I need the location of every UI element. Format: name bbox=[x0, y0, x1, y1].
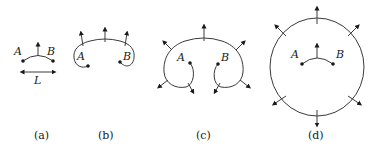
panel-d: A B (d) bbox=[270, 8, 364, 142]
point-b-dot bbox=[216, 62, 220, 66]
caption-b: (b) bbox=[98, 129, 114, 142]
panel-b: A B (b) bbox=[74, 29, 134, 142]
label-a: A bbox=[176, 51, 185, 64]
normal-arrow-icon bbox=[215, 83, 220, 92]
point-a-dot bbox=[86, 64, 90, 68]
caption-c: (c) bbox=[196, 129, 211, 142]
point-a-dot bbox=[188, 61, 192, 65]
point-b-dot bbox=[118, 60, 122, 64]
curve-ab bbox=[302, 58, 333, 64]
normal-arrow-icon bbox=[159, 80, 168, 87]
closed-curve bbox=[270, 18, 364, 116]
point-a-dot bbox=[21, 59, 25, 63]
label-a: A bbox=[76, 50, 85, 63]
label-b: B bbox=[122, 50, 131, 63]
point-a-dot bbox=[300, 62, 304, 66]
label-length: L bbox=[33, 74, 41, 87]
normal-arrow-icon bbox=[236, 42, 244, 50]
label-b: B bbox=[220, 51, 229, 64]
panel-a: A B L (a) bbox=[13, 44, 55, 142]
point-b-dot bbox=[51, 59, 55, 63]
normal-arrow-icon bbox=[164, 42, 172, 50]
caption-d: (d) bbox=[308, 129, 324, 142]
label-b: B bbox=[46, 45, 55, 58]
curve-ab bbox=[164, 38, 243, 87]
panel-c: A B (c) bbox=[159, 26, 249, 142]
normal-arrow-icon bbox=[240, 80, 249, 87]
label-a: A bbox=[290, 48, 299, 61]
caption-a: (a) bbox=[34, 129, 49, 142]
figure-canvas: A B L (a) A B (b) A B (c) bbox=[0, 0, 378, 152]
label-b: B bbox=[335, 48, 344, 61]
point-b-dot bbox=[331, 62, 335, 66]
label-a: A bbox=[13, 45, 22, 58]
